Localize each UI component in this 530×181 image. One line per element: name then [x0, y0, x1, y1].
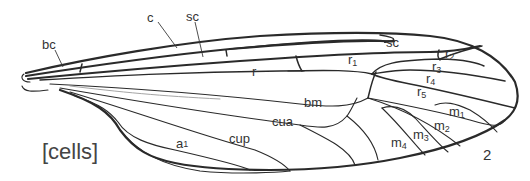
label-m4: m4	[391, 135, 407, 151]
radial-sector-vein	[40, 70, 372, 80]
label-r: r	[252, 64, 257, 79]
label-r2: r2	[445, 46, 454, 62]
humeral-crossvein	[80, 64, 82, 72]
label-sc-pointer: sc	[186, 9, 200, 24]
label-bc: bc	[42, 37, 56, 52]
wing-venation-svg: bc c sc sc r r1 r2 r3 r4 r5 bm cua cup a…	[0, 0, 530, 181]
sc-r-crossvein	[226, 50, 227, 56]
basal-faint-vein	[70, 86, 220, 99]
label-a1: a1	[176, 136, 188, 151]
c-leader	[158, 22, 177, 48]
label-m3: m3	[413, 127, 429, 143]
figure-title: [cells]	[42, 139, 98, 164]
label-cua: cua	[272, 114, 294, 129]
figure-number: 2	[483, 146, 491, 163]
label-m2: m2	[434, 118, 450, 134]
label-c: c	[147, 10, 154, 25]
cup-vein	[70, 92, 290, 171]
r-m-crossvein	[368, 72, 376, 98]
bc-leader	[55, 50, 63, 67]
r-crossvein	[296, 56, 302, 71]
label-cup: cup	[229, 131, 250, 146]
label-r3: r3	[432, 59, 441, 75]
m4-vein	[347, 116, 378, 160]
cua-distal	[300, 125, 355, 165]
label-sc-cell: sc	[386, 35, 400, 50]
wing-diagram: bc c sc sc r r1 r2 r3 r4 r5 bm cua cup a…	[0, 0, 530, 181]
m-cu-crossvein	[347, 98, 357, 116]
label-bm: bm	[304, 95, 322, 110]
